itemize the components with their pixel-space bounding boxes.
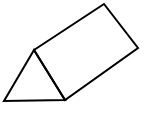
rectangular-face (34, 4, 138, 100)
prism-diagram (0, 0, 144, 115)
triangle-face (4, 50, 65, 101)
triangular-prism-drawing (0, 0, 144, 115)
